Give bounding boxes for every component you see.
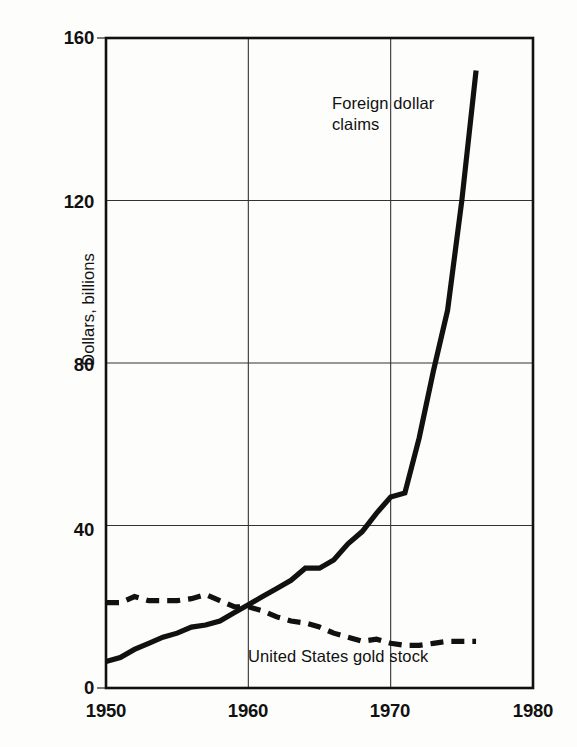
y-tick-120: 120 [64,191,94,213]
series-foreign-dollar-claims [106,71,476,662]
y-axis-tick-labels: 160 120 80 40 0 [24,0,94,747]
annotation-foreign-dollar-claims: Foreign dollar claims [332,93,472,135]
y-tick-80: 80 [74,354,94,376]
y-tick-160: 160 [64,27,94,49]
x-tick-1950: 1950 [86,700,126,722]
y-tick-0: 0 [84,677,94,699]
chart-figure: Dollars, billions 160 120 80 40 0 1950 1… [0,0,577,747]
x-tick-1980: 1980 [513,700,553,722]
annotation-foreign-line-1: Foreign dollar [332,94,434,112]
x-tick-1960: 1960 [228,700,268,722]
annotation-foreign-line-2: claims [332,115,379,133]
x-tick-1970: 1970 [370,700,410,722]
tickmarks [97,38,106,688]
y-tick-40: 40 [74,519,94,541]
annotation-us-gold-stock: United States gold stock [248,646,498,667]
